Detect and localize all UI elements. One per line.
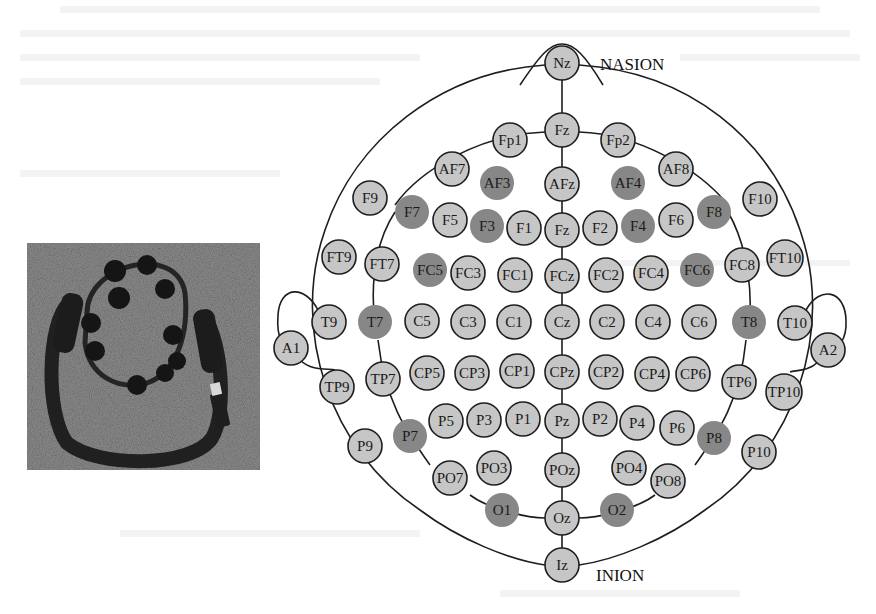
electrode-f8-highlighted: F8 [697,195,731,229]
electrode-label: F9 [362,190,378,206]
electrode-label: TP9 [324,379,349,395]
electrode-fc8: FC8 [725,248,759,282]
electrode-label: TP6 [726,374,752,390]
electrode-p8-highlighted: P8 [697,421,731,455]
electrode-label: CP5 [414,365,440,381]
electrode-cz: Cz [545,305,579,339]
electrode-label: C6 [690,314,708,330]
electrode-fp2: Fp2 [601,123,635,157]
electrode-label: Oz [553,510,571,526]
electrode-label: FCz [549,268,574,284]
electrode-t9: T9 [312,305,346,339]
electrode-o2-highlighted: O2 [600,493,634,527]
electrode-label: F5 [442,212,458,228]
electrode-c4: C4 [636,305,670,339]
electrode-f5: F5 [433,203,467,237]
electrode-f10: F10 [743,182,777,216]
electrode-label: F1 [516,220,532,236]
electrode-label: C2 [598,314,616,330]
electrode-cp4: CP4 [635,357,669,391]
electrode-po4: PO4 [612,451,646,485]
electrode-label: POz [549,462,575,478]
electrode-fc2: FC2 [589,258,623,292]
electrode-label: Fz [555,122,570,138]
electrode-label: T8 [741,314,758,330]
electrode-oz: Oz [545,501,579,535]
electrode-label: CP2 [593,364,619,380]
electrode-label: A1 [282,340,300,356]
electrode-label: C4 [644,314,662,330]
electrode-cp5: CP5 [410,356,444,390]
electrode-f6: F6 [659,203,693,237]
electrode-label: P2 [592,411,608,427]
electrode-label: Fz [555,222,570,238]
electrode-fc1: FC1 [498,258,532,292]
electrode-label: P4 [629,415,645,431]
electrode-label: F8 [706,204,722,220]
electrode-p1: P1 [506,402,540,436]
electrode-p9: P9 [348,429,382,463]
electrode-label: Fp1 [498,132,521,148]
electrode-ft10: FT10 [767,240,803,276]
electrode-label: Nz [553,55,571,71]
electrode-label: F10 [748,191,771,207]
electrode-tp7: TP7 [366,362,400,396]
electrode-cpz: CPz [545,355,579,389]
electrode-label: O1 [493,502,511,518]
electrode-a1: A1 [274,331,308,365]
electrode-p10: P10 [742,435,776,469]
electrode-label: AF3 [484,175,511,191]
electrode-p2: P2 [583,402,617,436]
electrode-fz: Fz [545,113,579,147]
electrode-f3-highlighted: F3 [470,209,504,243]
electrode-a2: A2 [811,333,845,367]
electrode-c2: C2 [590,305,624,339]
electrode-po3: PO3 [477,451,511,485]
electrode-poz: POz [545,453,579,487]
electrode-p3: P3 [467,403,501,437]
electrode-group: NzFzFp1Fp2AF7AF3AFzAF4AF8F9F7F5F3F1FzF2F… [274,46,845,582]
electrode-c1: C1 [497,305,531,339]
electrode-label: CP6 [680,366,706,382]
eeg-10-10-electrode-map: NASION INION NzFzFp1Fp2AF7AF3AFzAF4AF8F9… [0,0,876,614]
electrode-label: P6 [669,420,685,436]
inion-label: INION [596,566,644,585]
electrode-label: FC6 [684,262,710,278]
electrode-c6: C6 [682,305,716,339]
electrode-label: CP1 [504,363,530,379]
electrode-label: CP4 [639,366,665,382]
electrode-label: Fp2 [606,132,629,148]
electrode-fc6-highlighted: FC6 [680,253,714,287]
electrode-af3-highlighted: AF3 [480,166,514,200]
electrode-label: O2 [608,502,626,518]
electrode-iz: Iz [545,548,579,582]
electrode-fc3: FC3 [451,256,485,290]
electrode-label: P3 [476,412,492,428]
nasion-label: NASION [600,55,664,74]
electrode-label: F7 [404,204,420,220]
electrode-af4-highlighted: AF4 [611,166,645,200]
electrode-label: CPz [549,364,574,380]
electrode-f2: F2 [583,211,617,245]
electrode-label: FC5 [417,262,443,278]
electrode-label: P1 [515,411,531,427]
electrode-label: FT10 [769,250,802,266]
electrode-label: PO8 [655,473,682,489]
electrode-cp6: CP6 [676,357,710,391]
electrode-label: P8 [706,430,722,446]
electrode-label: P10 [747,444,770,460]
electrode-tp9: TP9 [320,370,354,404]
electrode-label: P9 [357,438,373,454]
electrode-fp1: Fp1 [493,123,527,157]
electrode-label: P7 [402,428,418,444]
electrode-nz: Nz [545,46,579,80]
electrode-fcz: FCz [545,259,579,293]
electrode-afz: AFz [545,167,579,201]
electrode-po8: PO8 [651,464,685,498]
electrode-ft7: FT7 [365,247,399,281]
electrode-label: T9 [321,314,338,330]
electrode-label: FT9 [326,249,351,265]
electrode-label: AF4 [615,175,642,191]
electrode-ft9: FT9 [322,240,356,274]
electrode-label: TP10 [768,384,801,400]
